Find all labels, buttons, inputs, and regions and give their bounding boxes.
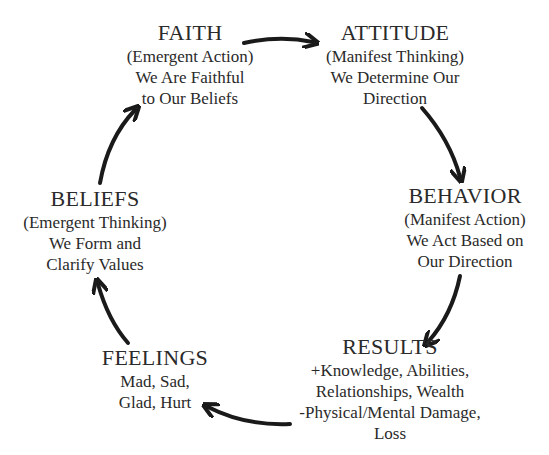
node-subtitle: (Emergent Thinking) — [10, 212, 180, 233]
node-text: Glad, Hurt — [100, 392, 210, 413]
node-title: BELIEFS — [10, 186, 180, 212]
node-subtitle: (Emergent Action) — [100, 46, 280, 67]
node-title: ATTITUDE — [305, 20, 485, 46]
node-text: Clarify Values — [10, 254, 180, 275]
node-text: Loss — [290, 423, 490, 444]
node-text: We Form and — [10, 233, 180, 254]
node-subtitle: (Manifest Thinking) — [305, 46, 485, 67]
node-text: We Determine Our — [305, 67, 485, 88]
node-behavior: BEHAVIOR (Manifest Action) We Act Based … — [385, 183, 545, 272]
arrow-attitude-to-behavior — [422, 108, 460, 177]
node-text: Relationships, Wealth — [290, 381, 490, 402]
node-text: to Our Beliefs — [100, 88, 280, 109]
node-text: We Act Based on — [385, 230, 545, 251]
node-title: RESULTS — [290, 334, 490, 360]
node-title: FEELINGS — [100, 345, 210, 371]
arrow-feelings-to-beliefs — [98, 284, 128, 343]
node-text: We Are Faithful — [100, 67, 280, 88]
arrow-results-to-feelings — [208, 407, 290, 424]
node-beliefs: BELIEFS (Emergent Thinking) We Form and … — [10, 186, 180, 275]
arrow-behavior-to-results — [428, 276, 460, 342]
node-subtitle: (Manifest Action) — [385, 209, 545, 230]
node-results: RESULTS +Knowledge, Abilities, Relations… — [290, 334, 490, 444]
node-text: Direction — [305, 88, 485, 109]
node-text: -Physical/Mental Damage, — [290, 402, 490, 423]
node-faith: FAITH (Emergent Action) We Are Faithful … — [100, 20, 280, 109]
node-text: +Knowledge, Abilities, — [290, 360, 490, 381]
node-text: Our Direction — [385, 251, 545, 272]
node-title: FAITH — [100, 20, 280, 46]
node-feelings: FEELINGS Mad, Sad, Glad, Hurt — [100, 345, 210, 413]
node-text: Mad, Sad, — [100, 371, 210, 392]
node-title: BEHAVIOR — [385, 183, 545, 209]
arrow-beliefs-to-faith — [100, 110, 135, 183]
node-attitude: ATTITUDE (Manifest Thinking) We Determin… — [305, 20, 485, 109]
